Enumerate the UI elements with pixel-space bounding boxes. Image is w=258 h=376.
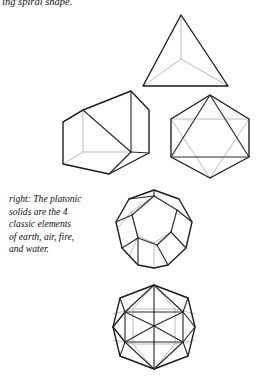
side-caption-line-5: and water. — [9, 243, 101, 256]
cube-visible-edges — [63, 91, 149, 174]
cube-figure — [61, 89, 151, 177]
top-caption-text: ing spiral shape. — [2, 0, 152, 8]
side-caption-line-4: of earth, air, fire, — [9, 231, 101, 244]
octahedron-hidden-edges — [171, 119, 249, 178]
side-caption-text: right: The platonic solids are the 4 cla… — [9, 193, 101, 256]
side-caption-line-1: right: The platonic — [9, 193, 101, 206]
icosahedron-visible-edges — [113, 285, 195, 369]
tetrahedron-hidden-edges — [143, 15, 228, 86]
octahedron-figure — [165, 93, 255, 181]
dodecahedron-figure — [113, 188, 195, 272]
illustration-page: ing spiral shape. right: The platonic so… — [0, 0, 258, 376]
side-caption-line-2: solids are the 4 — [9, 206, 101, 219]
side-caption-line-3: classic elements — [9, 218, 101, 231]
icosahedron-figure — [109, 282, 199, 372]
tetrahedron-visible-edges — [143, 15, 228, 86]
tetrahedron-figure — [141, 12, 237, 91]
cube-hidden-edges — [63, 110, 131, 164]
